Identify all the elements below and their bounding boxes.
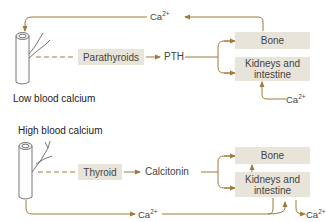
target-label: Kidneys and intestine [243, 174, 303, 196]
panel-title: High blood calcium [18, 125, 103, 136]
hormone-branch [218, 41, 232, 73]
hormone-label: PTH [164, 51, 184, 62]
ca-to-blood-arrow [25, 17, 147, 31]
ca-absorb-arrow [262, 82, 286, 99]
target-label: Kidneys and intestine [243, 58, 303, 80]
bone-box: Bone [235, 32, 310, 49]
kidneys-intestine-box: Kidneys and intestine [235, 172, 310, 197]
thyroid-box: Thyroid [78, 164, 122, 180]
ca-ion-label: Ca2+ [150, 10, 170, 22]
hormone-branch [218, 156, 232, 188]
target-label: Bone [261, 35, 284, 46]
ca-ion-label: Ca2+ [138, 208, 158, 220]
bone-box: Bone [235, 147, 310, 164]
ca-deposit-arrow [162, 198, 273, 214]
gland-label: Thyroid [83, 167, 116, 178]
blood-vessel-icon [16, 33, 50, 85]
target-label: Bone [261, 150, 284, 161]
hormone-label: Calcitonin [145, 166, 189, 177]
parathyroids-box: Parathyroids [78, 49, 144, 65]
ca-ion-label: Ca2+ [306, 208, 326, 220]
ca-ion-label: Ca2+ [286, 93, 306, 105]
panel-title: Low blood calcium [13, 93, 95, 104]
ca-excretion-arrow [296, 200, 305, 214]
blood-vessel-icon [19, 141, 52, 199]
ca-from-blood-arrow [26, 200, 135, 214]
gland-label: Parathyroids [83, 52, 139, 63]
kidneys-intestine-box: Kidneys and intestine [235, 57, 310, 81]
ca-release-arrow [185, 17, 263, 31]
